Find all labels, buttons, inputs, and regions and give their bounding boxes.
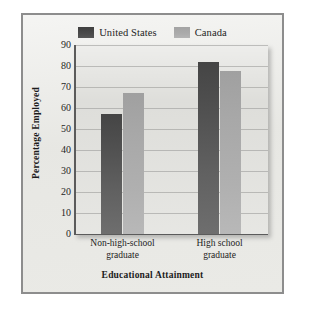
y-axis-tick-label: 50 <box>49 124 71 134</box>
y-axis-tick-label: 0 <box>49 229 71 239</box>
legend-swatch-united-states <box>78 27 94 38</box>
legend-entry-united-states: United States <box>78 27 157 38</box>
legend-label-canada: Canada <box>195 27 227 38</box>
bar-canada-0 <box>123 93 144 233</box>
chart-legend: United States Canada <box>23 25 282 39</box>
plot-area <box>74 45 268 235</box>
x-axis-category-labels: Non-high-schoolgraduateHigh schoolgradua… <box>74 237 268 271</box>
y-axis-tick-label: 20 <box>49 187 71 197</box>
category-label-line: graduate <box>74 249 171 261</box>
x-axis-title: Educational Attainment <box>23 270 282 280</box>
y-axis-tick-label: 70 <box>49 82 71 92</box>
x-axis-line <box>74 234 268 236</box>
bar-united-states-1 <box>198 62 219 234</box>
y-axis-tick-labels: 9080706050403020100 <box>49 45 71 235</box>
gridline <box>74 45 268 46</box>
y-axis-title-text: Percentage Employed <box>31 86 41 178</box>
y-axis-title: Percentage Employed <box>29 50 43 215</box>
category-label-line: Non-high-school <box>74 237 171 249</box>
bar-canada-1 <box>220 71 241 233</box>
chart-figure-background: United States Canada Percentage Employed… <box>23 15 282 292</box>
legend-swatch-canada <box>174 27 190 38</box>
chart-figure: United States Canada Percentage Employed… <box>21 13 284 294</box>
y-axis-tick-label: 60 <box>49 103 71 113</box>
bar-united-states-0 <box>101 114 122 233</box>
y-axis-line <box>74 45 76 235</box>
legend-label-united-states: United States <box>99 27 157 38</box>
y-axis-tick-label: 40 <box>49 145 71 155</box>
y-axis-tick-label: 80 <box>49 61 71 71</box>
x-axis-category-label-0: Non-high-schoolgraduate <box>74 237 171 271</box>
plot-wrapper: 9080706050403020100 <box>74 45 268 235</box>
y-axis-tick-label: 90 <box>49 40 71 50</box>
x-axis-category-label-1: High schoolgraduate <box>171 237 268 271</box>
category-label-line: High school <box>171 237 268 249</box>
gridline <box>74 66 268 67</box>
category-label-line: graduate <box>171 249 268 261</box>
y-axis-tick-label: 10 <box>49 208 71 218</box>
legend-entry-canada: Canada <box>174 27 227 38</box>
y-axis-tick-label: 30 <box>49 166 71 176</box>
